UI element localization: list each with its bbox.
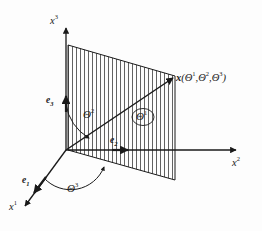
angle-label-theta3: Θ3 <box>67 182 78 194</box>
basis-label-e3: e3 <box>46 96 53 107</box>
figure-canvas: x3 x2 x1 e3 e2 e1 Θ2 Θ1 Θ3 x(Θ1,Θ2,Θ3) <box>0 0 262 231</box>
angle-label-theta1: Θ1 <box>136 110 147 122</box>
axis-label-x1: x1 <box>9 200 17 212</box>
axis-label-x3: x3 <box>50 14 58 26</box>
basis-label-e1: e1 <box>22 176 29 187</box>
position-vector-label: x(Θ1,Θ2,Θ3) <box>176 71 226 83</box>
basis-label-e2: e2 <box>110 136 117 147</box>
diagram-svg <box>0 0 262 231</box>
basis-vector-e1 <box>34 177 46 193</box>
angle-label-theta2: Θ2 <box>83 108 94 120</box>
axis-label-x2: x2 <box>232 156 240 168</box>
